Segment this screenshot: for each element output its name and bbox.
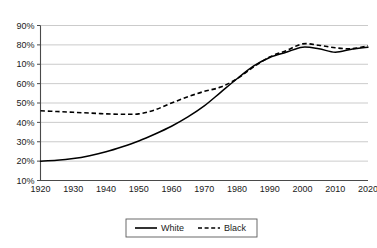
x-axis-tick-label: 1920: [30, 184, 50, 194]
series-line-black: [41, 44, 369, 115]
y-axis-tick-label: 20%: [16, 156, 34, 166]
y-axis-tick-label: 90%: [16, 21, 34, 31]
y-axis-tick-label: 30%: [16, 137, 34, 147]
legend-label-white: White: [161, 223, 184, 233]
y-axis-tick-labels: 90%80%10%60%50%40%30%20%10%: [16, 21, 34, 186]
x-axis-tick-label: 1970: [194, 184, 214, 194]
x-axis-tick-label: 1960: [161, 184, 181, 194]
line-chart: 90%80%10%60%50%40%30%20%10% 192019301940…: [0, 0, 377, 248]
x-axis-tick-label: 1930: [63, 184, 83, 194]
y-axis-tick-label: 10%: [16, 59, 34, 69]
x-axis-tick-label: 2010: [325, 184, 345, 194]
x-axis-tick-labels: 1920193019401950196019701980199020002010…: [30, 184, 377, 194]
x-axis-tick-label: 2000: [292, 184, 312, 194]
x-axis-tick-label: 1990: [260, 184, 280, 194]
x-axis-tick-label: 1980: [227, 184, 247, 194]
legend-label-black: Black: [224, 223, 247, 233]
y-axis-tick-label: 60%: [16, 79, 34, 89]
y-axis-tick-label: 50%: [16, 98, 34, 108]
chart-canvas: 90%80%10%60%50%40%30%20%10% 192019301940…: [0, 0, 377, 248]
x-axis-tick-label: 2020: [358, 184, 377, 194]
y-axis-tick-label: 40%: [16, 118, 34, 128]
x-axis-tick-label: 1940: [96, 184, 116, 194]
x-axis-tick-label: 1950: [129, 184, 149, 194]
y-axis-tick-label: 80%: [16, 40, 34, 50]
chart-legend: WhiteBlack: [126, 219, 257, 237]
